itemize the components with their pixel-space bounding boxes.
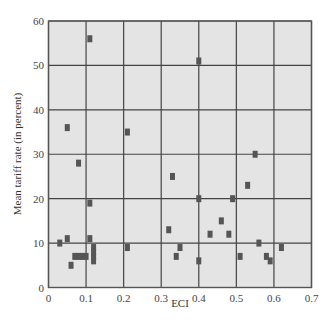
data-point — [170, 173, 175, 180]
data-point — [178, 244, 183, 251]
x-tick-label: 0.4 — [192, 292, 206, 304]
data-point — [196, 195, 201, 202]
y-axis-label: Mean tariff rate (in percent) — [11, 92, 24, 215]
y-tick-label: 30 — [33, 148, 45, 160]
data-point — [69, 262, 74, 269]
data-point — [226, 231, 231, 238]
y-tick-label: 10 — [33, 237, 45, 249]
data-point — [87, 35, 92, 42]
data-point — [196, 257, 201, 264]
data-point — [125, 129, 130, 136]
y-tick-label: 60 — [33, 15, 45, 27]
data-point — [91, 257, 96, 264]
data-point — [230, 195, 235, 202]
x-tick-label: 0 — [46, 292, 52, 304]
y-tick-label: 0 — [39, 282, 45, 294]
x-tick-label: 0.1 — [79, 292, 93, 304]
data-point — [253, 151, 258, 158]
x-tick-label: 0.7 — [305, 292, 319, 304]
data-point — [65, 124, 70, 131]
data-point — [208, 231, 213, 238]
x-tick-label: 0.6 — [267, 292, 281, 304]
data-point — [174, 253, 179, 260]
data-point — [256, 240, 261, 247]
data-point — [245, 182, 250, 189]
data-point — [125, 244, 130, 251]
x-tick-label: 0.2 — [117, 292, 131, 304]
data-point — [84, 253, 89, 260]
y-axis-ticks: 0102030405060 — [33, 15, 45, 294]
y-tick-label: 20 — [33, 193, 45, 205]
data-point — [219, 217, 224, 224]
x-tick-label: 0.3 — [154, 292, 168, 304]
data-point — [87, 235, 92, 242]
data-point — [238, 253, 243, 260]
data-point — [279, 244, 284, 251]
x-axis-label: ECI — [171, 297, 189, 309]
x-tick-label: 0.5 — [229, 292, 243, 304]
y-tick-label: 40 — [33, 104, 45, 116]
data-point — [76, 160, 81, 167]
data-point — [268, 257, 273, 264]
data-point — [196, 57, 201, 64]
scatter-chart: 00.10.20.30.40.50.60.7 0102030405060 ECI… — [0, 0, 331, 327]
data-point — [65, 235, 70, 242]
data-point — [57, 240, 62, 247]
y-tick-label: 50 — [33, 59, 45, 71]
data-point — [166, 226, 171, 233]
data-point — [87, 200, 92, 207]
